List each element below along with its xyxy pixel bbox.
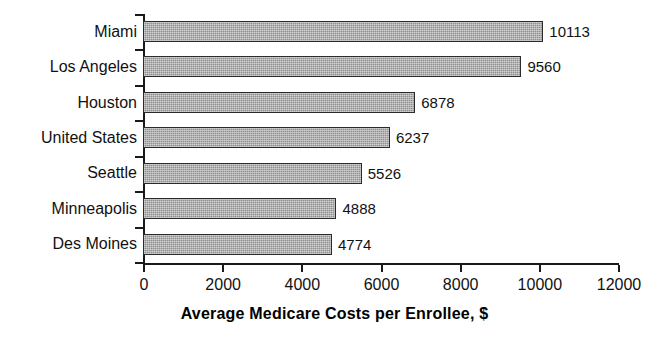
bar-row: 10113 bbox=[143, 14, 618, 49]
bar-value-label: 6237 bbox=[396, 128, 429, 147]
value-axis-tick bbox=[301, 265, 303, 272]
bar-row: 4888 bbox=[143, 191, 618, 226]
plot-area: 10113956068786237552648884774 bbox=[143, 14, 618, 262]
category-axis-tick bbox=[135, 120, 143, 122]
bar bbox=[143, 127, 390, 148]
category-label: Houston bbox=[7, 93, 137, 113]
category-label: Los Angeles bbox=[7, 57, 137, 77]
bar-row: 6878 bbox=[143, 85, 618, 120]
category-axis-tick bbox=[135, 156, 143, 158]
x-axis-title: Average Medicare Costs per Enrollee, $ bbox=[0, 305, 669, 323]
category-label: United States bbox=[7, 128, 137, 148]
bar-value-label: 6878 bbox=[421, 93, 454, 112]
category-axis-tick bbox=[135, 85, 143, 87]
value-axis-tick-label: 2000 bbox=[205, 275, 241, 295]
bar bbox=[143, 56, 521, 77]
value-axis-tick bbox=[539, 265, 541, 272]
value-axis-tick-label: 12000 bbox=[597, 275, 642, 295]
category-label: Des Moines bbox=[7, 234, 137, 254]
value-axis-tick bbox=[222, 265, 224, 272]
bar bbox=[143, 163, 362, 184]
value-axis-tick bbox=[143, 265, 145, 272]
bar-row: 6237 bbox=[143, 120, 618, 155]
bar-row: 5526 bbox=[143, 156, 618, 191]
value-axis-tick-label: 0 bbox=[140, 275, 149, 295]
bar-value-label: 5526 bbox=[368, 164, 401, 183]
value-axis-tick-label: 4000 bbox=[285, 275, 321, 295]
bar-value-label: 4774 bbox=[338, 235, 371, 254]
category-axis-tick bbox=[135, 49, 143, 51]
bar-row: 9560 bbox=[143, 49, 618, 84]
category-axis-tick bbox=[135, 191, 143, 193]
value-axis-tick-label: 8000 bbox=[443, 275, 479, 295]
category-label: Minneapolis bbox=[7, 199, 137, 219]
bar bbox=[143, 198, 336, 219]
bar-chart: MiamiLos AngelesHoustonUnited StatesSeat… bbox=[0, 0, 669, 350]
value-axis-tick-label: 10000 bbox=[518, 275, 563, 295]
category-label: Miami bbox=[7, 22, 137, 42]
value-axis-tick bbox=[618, 265, 620, 272]
value-axis-tick bbox=[460, 265, 462, 272]
category-axis-labels: MiamiLos AngelesHoustonUnited StatesSeat… bbox=[3, 14, 137, 262]
bar-value-label: 9560 bbox=[527, 57, 560, 76]
bar-row: 4774 bbox=[143, 227, 618, 262]
bar-value-label: 4888 bbox=[342, 199, 375, 218]
category-axis-tick bbox=[135, 262, 143, 264]
category-label: Seattle bbox=[7, 163, 137, 183]
bar-value-label: 10113 bbox=[549, 22, 590, 41]
value-axis-tick bbox=[381, 265, 383, 272]
category-axis-tick bbox=[135, 227, 143, 229]
category-axis-tick bbox=[135, 14, 143, 16]
bar bbox=[143, 234, 332, 255]
value-axis-tick-label: 6000 bbox=[364, 275, 400, 295]
bar bbox=[143, 21, 543, 42]
bar bbox=[143, 92, 415, 113]
